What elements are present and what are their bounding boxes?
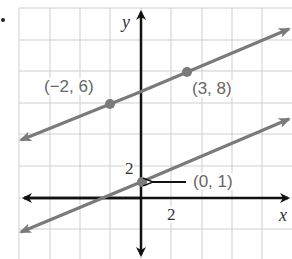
point-neg2-6 — [105, 99, 115, 109]
coordinate-plane — [0, 0, 292, 259]
label-point-0-1: (0, 1) — [192, 173, 234, 190]
point-0-1 — [137, 177, 147, 187]
y-tick-label: 2 — [125, 160, 134, 177]
y-axis-label: y — [122, 13, 130, 31]
point-3-8 — [182, 67, 192, 77]
label-point-3-8: (3, 8) — [191, 80, 233, 97]
x-axis-label: x — [279, 206, 287, 224]
label-point-neg2-6: (−2, 6) — [43, 78, 95, 95]
x-tick-label: 2 — [167, 206, 176, 223]
